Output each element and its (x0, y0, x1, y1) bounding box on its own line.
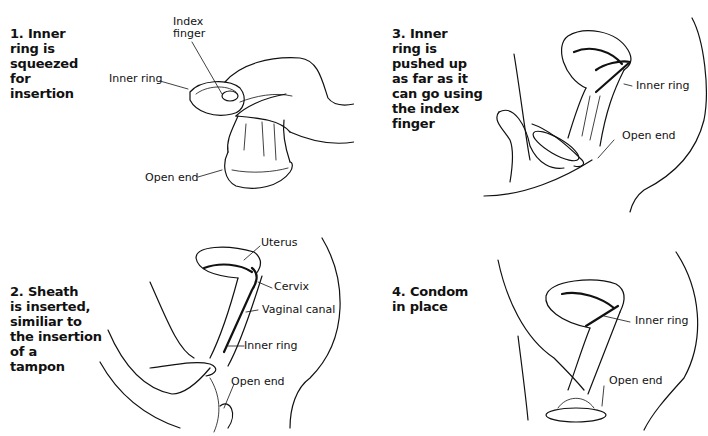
step-3-panel: 3. Inner ring is pushed up as far as it … (354, 0, 708, 218)
label-open-end: Open end (145, 172, 199, 184)
label-cervix: Cervix (274, 281, 309, 293)
label-index-finger: Index finger (173, 16, 205, 40)
label-inner-ring: Inner ring (244, 340, 298, 352)
step-1-panel: 1. Inner ring is squeezed for insertion … (0, 0, 354, 218)
step-3-illustration (354, 0, 708, 218)
label-inner-ring: Inner ring (636, 80, 690, 92)
step-4-panel: 4. Condom in place Inner ring Open end (354, 218, 708, 436)
label-open-end: Open end (622, 130, 676, 142)
step-4-illustration (354, 218, 708, 436)
label-uterus: Uterus (261, 237, 297, 249)
label-open-end: Open end (231, 376, 285, 388)
step-2-panel: 2. Sheath is inserted, similiar to the i… (0, 218, 354, 436)
label-vaginal-canal: Vaginal canal (262, 304, 335, 316)
label-inner-ring: Inner ring (635, 315, 689, 327)
label-open-end: Open end (609, 375, 663, 387)
label-inner-ring: Inner ring (109, 73, 163, 85)
step-2-illustration (0, 218, 354, 436)
